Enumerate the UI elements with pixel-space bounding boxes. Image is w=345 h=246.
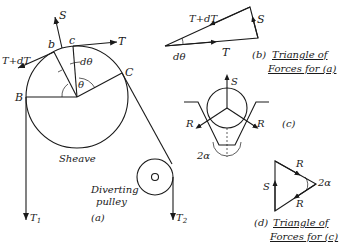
label-S-b: S	[257, 13, 265, 26]
dtheta-arc	[70, 62, 80, 64]
T-force-arrow	[73, 42, 117, 46]
caption-d-line2: Forces for (c)	[269, 231, 338, 242]
label-dtheta-a: dθ	[80, 56, 92, 67]
diverting-pulley	[137, 159, 173, 195]
label-alpha-c: 2α	[196, 150, 210, 161]
caption-d-prefix: (d)	[254, 217, 268, 228]
label-sheave: Sheave	[59, 153, 96, 164]
label-T2: T2	[176, 212, 188, 225]
label-pulley: pulley	[96, 196, 127, 207]
label-theta: θ	[78, 79, 84, 90]
caption-b-line2: Forces for (a)	[267, 63, 337, 74]
label-R-right: R	[256, 118, 265, 129]
label-S-a: S	[59, 9, 67, 22]
label-TdT-b: T+dT	[189, 13, 218, 24]
figure-c-groove	[184, 77, 269, 157]
caption-d-line1: Triangle of	[273, 217, 331, 228]
label-B: B	[14, 91, 23, 104]
label-T-a: T	[118, 35, 127, 48]
label-diverting: Diverting	[90, 184, 139, 195]
pulley-hub	[152, 174, 159, 181]
label-b: b	[48, 38, 55, 51]
label-T1: T1	[30, 212, 41, 225]
caption-b-line1: Triangle of	[272, 49, 330, 60]
caption-b-prefix: (b)	[252, 49, 266, 60]
label-R-top: R	[295, 158, 304, 169]
label-R-left: R	[185, 118, 194, 129]
label-alpha-d: 2α	[317, 177, 331, 188]
caption-c: (c)	[282, 118, 296, 129]
rope-C-to-pulley	[122, 73, 172, 164]
label-S-d: S	[263, 181, 270, 192]
diagram-canvas: S b c T T+dT dθ θ B C Sheave Diverting p…	[0, 0, 345, 246]
label-c: c	[69, 34, 75, 47]
caption-a: (a)	[91, 212, 105, 223]
angle-arc-B	[62, 84, 68, 97]
label-S-c: S	[231, 76, 238, 87]
label-C: C	[125, 66, 134, 79]
label-T-b: T	[222, 46, 231, 59]
label-R-bottom: R	[295, 198, 304, 209]
label-dtheta-b: dθ	[173, 51, 185, 62]
label-TdT-a: T+dT	[2, 55, 31, 66]
